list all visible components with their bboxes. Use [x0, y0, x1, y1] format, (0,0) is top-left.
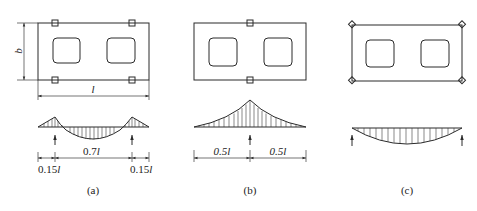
figure-canvas: b l	[0, 0, 477, 211]
width-dimension-b: b	[12, 23, 38, 80]
opening-left-a	[53, 38, 80, 63]
opening-right-b	[264, 38, 292, 66]
slab-outline-a	[38, 23, 149, 80]
opening-right-a	[107, 38, 135, 63]
label-left-half-b: 0.5l	[214, 145, 231, 157]
caption-c: (c)	[401, 184, 414, 197]
span-dimensions-a: 0.7l 0.15l 0.15l	[38, 145, 152, 175]
panel-c: (c)	[348, 21, 465, 197]
label-right-overhang-a: 0.15l	[130, 163, 152, 175]
label-l: l	[91, 83, 94, 95]
label-left-overhang-a: 0.15l	[38, 163, 60, 175]
moment-diagram-b	[194, 100, 306, 127]
caption-a: (a)	[87, 184, 100, 197]
label-span-a: 0.7l	[83, 145, 100, 157]
panel-b: 0.5l 0.5l (b)	[194, 20, 306, 197]
slab-outline-c	[352, 25, 462, 81]
opening-right-c	[421, 40, 449, 67]
label-b: b	[12, 48, 24, 54]
panel-a: b l	[12, 20, 152, 197]
span-dimensions-b: 0.5l 0.5l	[194, 145, 306, 162]
label-right-half-b: 0.5l	[270, 145, 287, 157]
slab-outline-b	[194, 23, 306, 80]
moment-diagram-c	[352, 128, 462, 144]
reaction-arrow-icon	[55, 135, 132, 145]
square-support-icon	[52, 20, 135, 83]
opening-left-c	[366, 40, 394, 67]
opening-left-b	[209, 38, 237, 66]
caption-b: (b)	[244, 184, 257, 197]
square-support-icon	[247, 20, 253, 83]
